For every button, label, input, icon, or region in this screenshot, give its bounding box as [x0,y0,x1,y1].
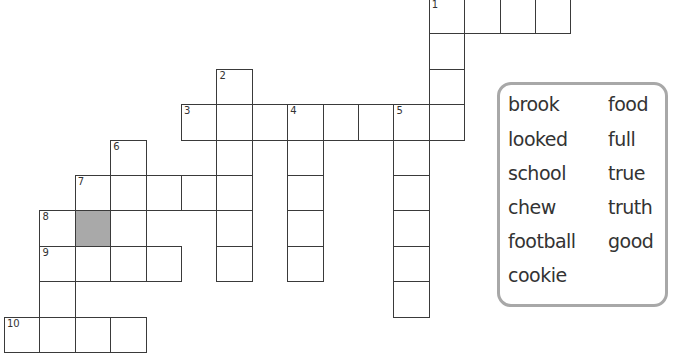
crossword-cell[interactable] [181,175,217,211]
word-food: food [608,93,648,115]
crossword-cell[interactable] [75,317,111,353]
clue-number: 2 [219,70,225,82]
clue-number: 10 [7,318,20,330]
word-bank: brook looked school chew football cookie… [497,82,668,307]
crossword-cell[interactable] [393,175,429,211]
crossword-cell[interactable] [429,33,465,69]
crossword-cell[interactable] [110,175,146,211]
word-school: school [508,162,566,184]
crossword-cell[interactable] [287,246,323,282]
crossword-cell[interactable] [393,140,429,176]
shaded-cell [75,210,111,246]
crossword-cell[interactable] [393,281,429,317]
word-truth: truth [608,196,652,218]
crossword-cell[interactable] [393,246,429,282]
word-true: true [608,162,645,184]
crossword-cell[interactable] [393,210,429,246]
clue-number: 4 [290,105,296,117]
crossword-cell[interactable]: 7 [75,175,111,211]
crossword-cell[interactable] [146,175,182,211]
crossword-cell[interactable] [216,104,252,140]
word-football: football [508,230,576,252]
word-chew: chew [508,196,556,218]
crossword-cell[interactable] [216,140,252,176]
crossword-cell[interactable]: 1 [429,0,465,34]
crossword-cell[interactable] [216,175,252,211]
clue-number: 5 [396,105,402,117]
crossword-cell[interactable] [287,210,323,246]
crossword-cell[interactable] [464,0,500,34]
crossword-cell[interactable]: 6 [110,140,146,176]
clue-number: 8 [42,211,48,223]
clue-number: 1 [432,0,438,11]
crossword-cell[interactable]: 3 [181,104,217,140]
crossword-cell[interactable] [252,104,288,140]
word-full: full [608,128,635,150]
crossword-cell[interactable] [216,246,252,282]
crossword-cell[interactable] [429,104,465,140]
clue-number: 7 [78,176,84,188]
crossword-cell[interactable] [39,281,75,317]
crossword-cell[interactable] [287,175,323,211]
crossword-cell[interactable]: 8 [39,210,75,246]
crossword-cell[interactable]: 9 [39,246,75,282]
clue-number: 3 [184,105,190,117]
crossword-cell[interactable] [287,140,323,176]
crossword-cell[interactable] [323,104,359,140]
crossword-cell[interactable]: 2 [216,69,252,105]
crossword-cell[interactable]: 5 [393,104,429,140]
crossword-cell[interactable] [39,317,75,353]
crossword-cell[interactable] [146,246,182,282]
crossword-cell[interactable]: 4 [287,104,323,140]
word-looked: looked [508,128,568,150]
crossword-cell[interactable] [216,210,252,246]
word-cookie: cookie [508,264,567,286]
crossword-cell[interactable] [110,317,146,353]
clue-number: 9 [42,247,48,259]
crossword-cell[interactable] [500,0,536,34]
crossword-cell[interactable] [535,0,571,34]
crossword-cell[interactable] [110,246,146,282]
word-good: good [608,230,653,252]
crossword-cell[interactable]: 10 [4,317,40,353]
word-brook: brook [508,93,559,115]
clue-number: 6 [113,141,119,153]
crossword-cell[interactable] [358,104,394,140]
crossword-cell[interactable] [75,246,111,282]
crossword-cell[interactable] [110,210,146,246]
crossword-cell[interactable] [429,69,465,105]
